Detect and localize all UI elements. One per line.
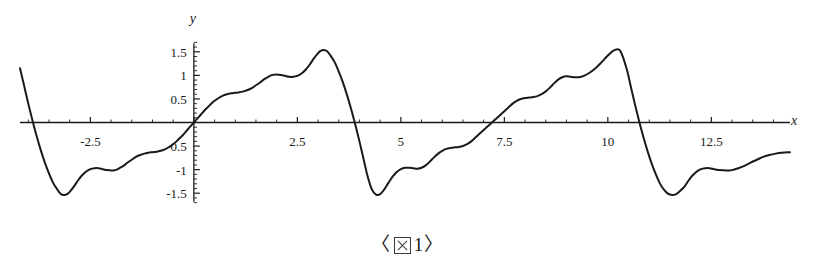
x-tick-label: 2.5: [289, 134, 305, 147]
y-tick-label: 1.5: [171, 45, 187, 58]
y-tick-label: -1: [176, 163, 187, 176]
caption-open-bracket: 〈: [371, 234, 391, 255]
caption-row: 〈1〉: [0, 215, 815, 269]
x-tick-label: 10: [601, 134, 614, 147]
plot-figure: y x -2.52.557.51012.5 1.510.5-0.5-1-1.5: [0, 0, 815, 215]
plot-canvas: [0, 0, 815, 215]
x-tick-label: 5: [398, 134, 405, 147]
caption-number: 1: [414, 234, 425, 255]
y-tick-label: 0.5: [171, 92, 187, 105]
figure-caption: 〈1〉: [371, 229, 445, 256]
y-tick-label: -0.5: [166, 140, 187, 153]
x-axis-ticks: [28, 117, 773, 123]
x-axis-label: x: [791, 114, 797, 128]
axis-group: [20, 43, 790, 201]
x-tick-label: 12.5: [700, 134, 723, 147]
y-tick-label: -1.5: [166, 187, 187, 200]
missing-glyph-box-icon: [394, 237, 411, 254]
y-axis-label: y: [190, 12, 196, 26]
x-tick-label: -2.5: [80, 134, 101, 147]
caption-close-bracket: 〉: [424, 234, 444, 255]
y-tick-label: 1: [180, 69, 187, 82]
figure-page: y x -2.52.557.51012.5 1.510.5-0.5-1-1.5 …: [0, 0, 815, 269]
x-tick-label: 7.5: [496, 134, 512, 147]
